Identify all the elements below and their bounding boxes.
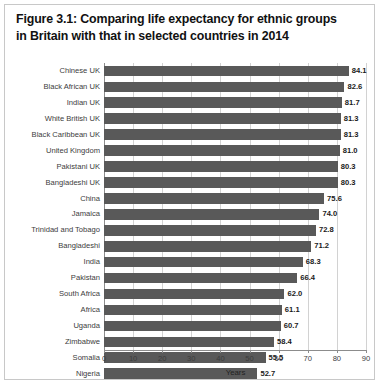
bar-wrapper: 75.6	[104, 191, 367, 207]
figure-title-line-1: Figure 3.1: Comparing life expectancy fo…	[16, 11, 361, 28]
bar-value-label: 80.3	[338, 175, 356, 191]
category-label: White British UK	[45, 111, 100, 127]
x-tick-label: 60	[274, 354, 282, 363]
bar-value-label: 71.2	[311, 238, 329, 254]
bar[interactable]	[104, 113, 341, 124]
x-tick-label: 40	[216, 354, 224, 363]
category-label: Africa	[81, 302, 100, 318]
category-label: Black African UK	[43, 79, 100, 95]
chart-row: China75.6	[15, 191, 367, 207]
bar[interactable]	[104, 337, 274, 348]
figure-title: Figure 3.1: Comparing life expectancy fo…	[16, 11, 361, 44]
bar[interactable]	[104, 241, 311, 252]
chart-row: Black African UK82.6	[15, 79, 367, 95]
x-tick-20	[162, 350, 163, 353]
bar[interactable]	[104, 161, 338, 172]
category-label: Uganda	[73, 318, 100, 334]
x-axis-title: Years	[104, 368, 367, 377]
bar-value-label: 74.0	[319, 206, 337, 222]
x-tick-label: 30	[187, 354, 195, 363]
x-tick-60	[279, 350, 280, 353]
category-label: Pakistani UK	[57, 159, 100, 175]
bar-value-label: 72.8	[316, 222, 334, 238]
bar-value-label: 80.3	[338, 159, 356, 175]
bar[interactable]	[104, 321, 281, 332]
x-tick-40	[220, 350, 221, 353]
bar[interactable]	[104, 289, 284, 300]
bar[interactable]	[104, 225, 316, 236]
bar-value-label: 60.7	[281, 318, 299, 334]
bar-value-label: 58.4	[274, 334, 292, 350]
x-tick-0	[104, 350, 105, 353]
bar[interactable]	[104, 97, 342, 108]
x-tick-90	[366, 350, 367, 353]
chart-row: Chinese UK84.1	[15, 63, 367, 79]
x-tick-label: 90	[362, 354, 370, 363]
bar-value-label: 82.6	[344, 79, 362, 95]
category-label: South Africa	[59, 286, 100, 302]
x-tick-label: 80	[333, 354, 341, 363]
bar-wrapper: 81.7	[104, 95, 367, 111]
category-label: Pakistan	[71, 270, 100, 286]
chart-row: Pakistan66.4	[15, 270, 367, 286]
bar-value-label: 81.3	[341, 127, 359, 143]
bar-wrapper: 81.0	[104, 143, 367, 159]
x-tick-50	[250, 350, 251, 353]
bar-value-label: 81.7	[342, 95, 360, 111]
x-tick-label: 0	[102, 354, 106, 363]
bar-wrapper: 80.3	[104, 175, 367, 191]
chart-plot-area: Chinese UK84.1Black African UK82.6Indian…	[15, 63, 367, 350]
category-label: Nigeria	[76, 366, 100, 382]
bar[interactable]	[104, 209, 319, 220]
x-tick-70	[308, 350, 309, 353]
bar[interactable]	[104, 66, 349, 77]
bar-wrapper: 68.3	[104, 254, 367, 270]
bar-wrapper: 71.2	[104, 238, 367, 254]
chart-row: White British UK81.3	[15, 111, 367, 127]
bar-value-label: 66.4	[297, 270, 315, 286]
x-tick-80	[337, 350, 338, 353]
x-tick-label: 70	[304, 354, 312, 363]
chart-row: Bangladeshi UK80.3	[15, 175, 367, 191]
bar-wrapper: 62.0	[104, 286, 367, 302]
bar-value-label: 62.0	[284, 286, 302, 302]
bar-wrapper: 82.6	[104, 79, 367, 95]
category-label: United Kingdom	[46, 143, 100, 159]
bar-wrapper: 72.8	[104, 222, 367, 238]
category-label: Chinese UK	[59, 63, 100, 79]
bar[interactable]	[104, 193, 324, 204]
chart-row: United Kingdom81.0	[15, 143, 367, 159]
figure-container: Figure 3.1: Comparing life expectancy fo…	[4, 4, 375, 380]
bar[interactable]	[104, 257, 303, 268]
bar[interactable]	[104, 305, 282, 316]
chart-row: Zimbabwe58.4	[15, 334, 367, 350]
category-label: Black Caribbean UK	[32, 127, 100, 143]
category-label: Zimbabwe	[65, 334, 100, 350]
x-tick-label: 10	[129, 354, 137, 363]
x-axis-line	[104, 350, 367, 351]
bar[interactable]	[104, 82, 344, 93]
chart-row: Trinidad and Tobago72.8	[15, 222, 367, 238]
chart-row: Indian UK81.7	[15, 95, 367, 111]
category-label: Trinidad and Tobago	[31, 222, 100, 238]
chart-row: India68.3	[15, 254, 367, 270]
bar-value-label: 81.3	[341, 111, 359, 127]
bar-wrapper: 80.3	[104, 159, 367, 175]
figure-title-line-2: in Britain with that in selected countri…	[16, 28, 361, 45]
bar[interactable]	[104, 273, 297, 284]
category-label: Jamaica	[72, 206, 100, 222]
chart-row: Bangladeshi71.2	[15, 238, 367, 254]
category-label: Somalia	[73, 350, 100, 366]
bar[interactable]	[104, 145, 340, 156]
bar-wrapper: 81.3	[104, 127, 367, 143]
x-tick-30	[191, 350, 192, 353]
bar[interactable]	[104, 129, 341, 140]
bar-wrapper: 60.7	[104, 318, 367, 334]
bar-value-label: 81.0	[340, 143, 358, 159]
bar-wrapper: 84.1	[104, 63, 367, 79]
category-label: Indian UK	[67, 95, 100, 111]
category-label: Bangladeshi UK	[46, 175, 100, 191]
bar-value-label: 68.3	[303, 254, 321, 270]
bar[interactable]	[104, 177, 338, 188]
bar-wrapper: 58.4	[104, 334, 367, 350]
